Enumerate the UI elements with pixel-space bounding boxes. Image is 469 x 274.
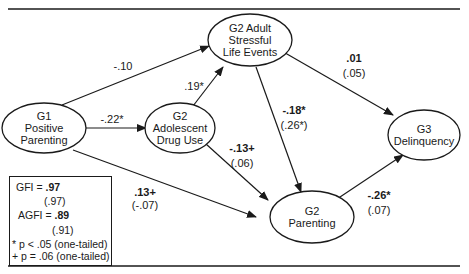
node-g3-delinquency: G3 Delinquency [388, 123, 460, 147]
coef-g1-to-drug: -.22* [97, 113, 127, 126]
node-g1-positive-parenting: G1 Positive Parenting [4, 110, 84, 146]
coef-parenting-to-delinquency: -.26* (.07) [362, 189, 396, 217]
node-g2-adolescent-drug-use: G2 Adolescent Drug Use [145, 110, 215, 146]
fit-legend: GFI = .97 (.97) AGFI = .89 (.91) * p < .… [9, 176, 112, 266]
node-g2-parenting: G2 Parenting [272, 205, 352, 229]
coef-stress-to-parenting: -.18* (.26*) [276, 104, 312, 132]
coef-g1-to-stress: -.10 [108, 60, 138, 73]
coef-g1-to-parenting: .13+ (-.07) [128, 186, 162, 212]
coef-drug-to-stress: .19* [181, 80, 207, 93]
coef-stress-to-delinquency: .01 (.05) [338, 52, 370, 80]
node-g2-adult-stressful-life-events: G2 Adult Stressful Life Events [208, 22, 292, 58]
coef-drug-to-parenting: -.13+ (.06) [225, 142, 259, 170]
